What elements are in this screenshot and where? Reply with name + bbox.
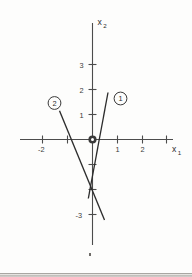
origin-dot-center (91, 138, 94, 141)
figure-root: 1 2 -2 1 2 3 2 1 -3 x 2 x 1 (0, 0, 192, 277)
scan-speck (89, 253, 91, 256)
constraint-line-1[interactable] (88, 93, 108, 199)
y-axis-label-subscript: 2 (103, 22, 107, 29)
coordinate-plot: 1 2 -2 1 2 3 2 1 -3 x 2 x 1 (0, 0, 192, 277)
callout-label-2: 2 (52, 99, 56, 108)
x-tick-label-1: 1 (116, 145, 120, 154)
y-tick-label-2: 2 (80, 86, 84, 95)
y-axis-label: x (98, 17, 103, 27)
x-axis-label-subscript: 1 (178, 149, 182, 156)
y-tick-label--3: -3 (76, 211, 83, 220)
x-axis-label: x (172, 144, 177, 154)
y-tick-label-1: 1 (80, 111, 84, 120)
x-tick-label--2: -2 (38, 145, 45, 154)
callout-label-1: 1 (118, 94, 122, 103)
y-tick-label-3: 3 (80, 61, 84, 70)
page-bottom-edge-line (0, 273, 192, 274)
constraint-line-2[interactable] (60, 111, 105, 220)
x-tick-label-2: 2 (141, 145, 145, 154)
